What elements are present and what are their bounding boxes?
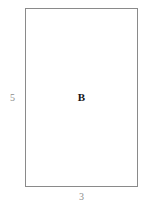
figure-canvas: B 5 3	[0, 0, 145, 206]
rectangle-label: B	[25, 8, 138, 187]
height-dimension-label: 5	[0, 8, 25, 187]
width-dimension-label: 3	[25, 187, 138, 206]
